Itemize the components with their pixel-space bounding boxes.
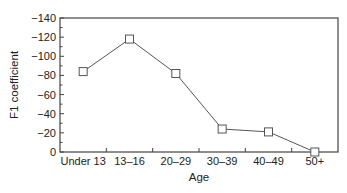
y-axis: 0−20−40−60−80−100−120−140 [31, 12, 64, 158]
x-tick-label: 20–29 [161, 155, 192, 167]
x-axis: Under 1313–1620–2930–3940–4950+ [61, 148, 325, 167]
plot-frame [60, 18, 338, 152]
data-series [79, 35, 319, 156]
y-tick-label: −100 [31, 50, 56, 62]
y-tick-label: −40 [37, 108, 56, 120]
y-tick-label: −140 [31, 12, 56, 24]
x-tick-label: 13–16 [114, 155, 145, 167]
y-tick-label: 0 [50, 146, 56, 158]
data-point-marker [126, 35, 134, 43]
x-tick-label: 50+ [305, 155, 324, 167]
data-point-marker [79, 68, 87, 76]
y-tick-label: −20 [37, 127, 56, 139]
data-point-marker [311, 148, 319, 156]
y-tick-label: −60 [37, 89, 56, 101]
data-point-marker [172, 70, 180, 78]
x-tick-label: 40–49 [253, 155, 284, 167]
plot-border [60, 18, 338, 152]
y-tick-label: −120 [31, 31, 56, 43]
x-tick-label: Under 13 [61, 155, 106, 167]
line-chart: 0−20−40−60−80−100−120−140 Under 1313–162… [0, 0, 347, 193]
series-line [83, 39, 315, 152]
x-axis-title: Age [189, 171, 209, 183]
y-tick-label: −80 [37, 69, 56, 81]
data-point-marker [265, 128, 273, 136]
x-tick-label: 30–39 [207, 155, 238, 167]
data-point-marker [218, 125, 226, 133]
y-axis-title: F1 coefficient [8, 50, 20, 119]
